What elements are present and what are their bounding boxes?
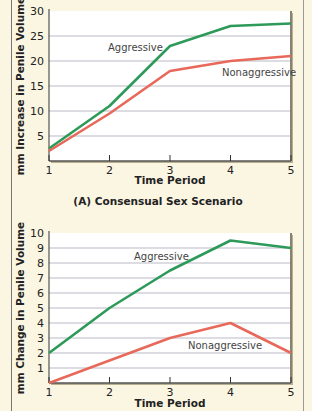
figure: 5101520253012345AggressiveNonaggressivem… [0, 0, 312, 411]
y-tick-label: 8 [37, 257, 44, 270]
chart-caption: (A) Consensual Sex Scenario [73, 195, 242, 207]
y-tick-label: 1 [37, 362, 44, 375]
x-axis-title: Time Period [135, 397, 206, 409]
series-label-aggressive: Aggressive [108, 42, 163, 53]
x-axis-title: Time Period [135, 174, 206, 186]
x-tick-label: 4 [227, 164, 234, 177]
y-tick-label: 30 [30, 5, 44, 18]
y-tick-label: 4 [37, 317, 44, 330]
x-tick-label: 1 [46, 386, 53, 399]
y-tick-label: 9 [37, 242, 44, 255]
x-tick-label: 2 [106, 386, 113, 399]
x-tick-label: 1 [46, 164, 53, 177]
y-tick-label: 5 [37, 130, 44, 143]
y-axis-title: mm Change in Penile Volume [14, 222, 26, 394]
series-label-nonaggressive: Nonaggressive [188, 340, 262, 351]
chart-consensual: 5101520253012345AggressiveNonaggressivem… [14, 0, 296, 207]
series-label-aggressive: Aggressive [134, 251, 189, 262]
y-tick-label: 15 [30, 80, 44, 93]
y-tick-label: 5 [37, 302, 44, 315]
chart-second: 1234567891012345AggressiveNonaggressivem… [14, 222, 295, 409]
x-tick-label: 4 [227, 386, 234, 399]
y-tick-label: 2 [37, 347, 44, 360]
y-tick-label: 7 [37, 272, 44, 285]
series-label-nonaggressive: Nonaggressive [222, 67, 296, 78]
y-tick-label: 6 [37, 287, 44, 300]
y-tick-label: 10 [30, 105, 44, 118]
y-axis-title: mm Increase in Penile Volume [14, 0, 26, 175]
y-tick-label: 20 [30, 55, 44, 68]
y-tick-label: 3 [37, 332, 44, 345]
x-tick-label: 5 [288, 164, 295, 177]
x-tick-label: 5 [288, 386, 295, 399]
x-tick-label: 2 [106, 164, 113, 177]
y-tick-label: 10 [30, 227, 44, 240]
y-tick-label: 25 [30, 30, 44, 43]
